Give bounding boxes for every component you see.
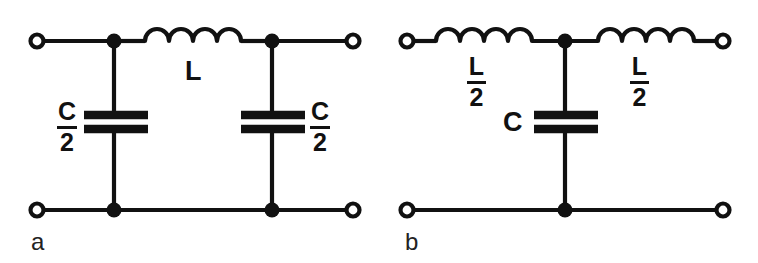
panel-letter-a: a: [31, 230, 44, 254]
terminal-a-in-bottom: [31, 204, 44, 217]
inductor-b-right-coil: [598, 29, 694, 41]
label-capacitor-a-left-C-over-2: C 2: [57, 99, 77, 155]
terminal-b-in-top: [401, 35, 414, 48]
inductor-a-L-coil: [145, 29, 241, 41]
label-capacitor-a-right-numerator: C: [310, 99, 330, 126]
terminal-a-out-top: [347, 35, 360, 48]
schematic-canvas: [0, 0, 758, 263]
label-inductor-a-L: L: [185, 58, 202, 85]
terminal-b-out-bottom: [717, 204, 730, 217]
panel-b-schematic: [401, 29, 730, 218]
label-capacitor-a-right-denominator: 2: [312, 129, 328, 156]
label-inductor-b-right-numerator: L: [631, 54, 648, 81]
node-dot-a-bottom-right: [265, 203, 280, 218]
label-inductor-b-right-L-over-2: L 2: [630, 54, 649, 110]
terminal-a-in-top: [31, 35, 44, 48]
node-dot-b-top-center: [558, 34, 573, 49]
inductor-b-left-coil: [436, 29, 532, 41]
label-inductor-b-left-L-over-2: L 2: [467, 54, 486, 110]
label-capacitor-b-C: C: [503, 109, 523, 136]
node-dot-b-bottom-center: [558, 203, 573, 218]
label-inductor-b-right-denominator: 2: [632, 84, 648, 111]
panel-letter-b: b: [405, 230, 418, 254]
label-inductor-b-left-numerator: L: [468, 54, 485, 81]
node-dot-a-bottom-left: [107, 203, 122, 218]
label-inductor-b-left-denominator: 2: [469, 84, 485, 111]
terminal-b-out-top: [717, 35, 730, 48]
node-dot-a-top-right: [265, 34, 280, 49]
label-capacitor-a-right-C-over-2: C 2: [310, 99, 330, 155]
label-capacitor-a-left-denominator: 2: [59, 129, 75, 156]
terminal-b-in-bottom: [401, 204, 414, 217]
terminal-a-out-bottom: [347, 204, 360, 217]
label-capacitor-a-left-numerator: C: [57, 99, 77, 126]
circuit-figure: L C 2 C 2 a L 2 L 2 C b: [0, 0, 758, 263]
node-dot-a-top-left: [107, 34, 122, 49]
